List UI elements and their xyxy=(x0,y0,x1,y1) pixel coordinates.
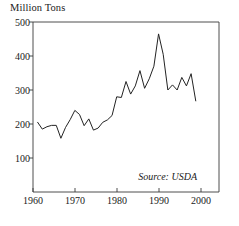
chart-canvas xyxy=(0,0,239,226)
y-axis-ticks xyxy=(29,22,33,158)
chart-figure: Million Tons 500 400 300 200 100 1960 19… xyxy=(0,0,239,226)
data-series-line xyxy=(38,34,196,138)
x-axis-ticks xyxy=(33,188,201,192)
